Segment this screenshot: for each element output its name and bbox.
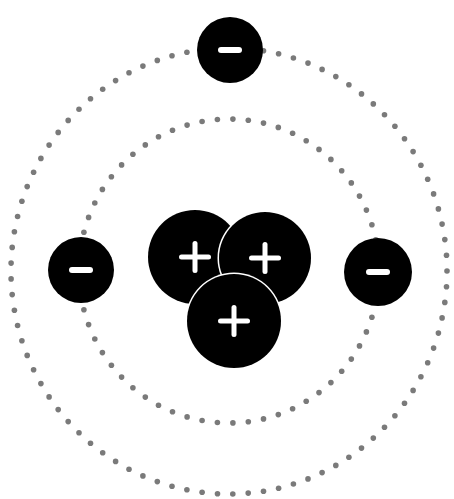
proton: +: [186, 273, 283, 370]
orbit-dot: [364, 207, 370, 213]
orbit-dot: [19, 199, 25, 205]
orbit-dot: [184, 414, 190, 420]
orbit-dot: [357, 193, 363, 199]
orbit-dot: [230, 420, 236, 426]
orbit-dot: [100, 350, 106, 356]
orbit-dot: [276, 412, 282, 418]
orbit-dot: [305, 476, 311, 482]
electron: −: [48, 237, 114, 303]
atom-diagram: +++−−−: [0, 0, 454, 499]
orbit-dot: [276, 125, 282, 131]
orbit-dot: [319, 470, 325, 476]
orbit-dot: [65, 118, 71, 124]
orbit-dot: [76, 106, 82, 112]
orbit-dot: [276, 51, 282, 57]
orbit-dot: [113, 78, 119, 84]
orbit-dot: [119, 162, 125, 168]
orbit-dot: [402, 401, 408, 407]
orbit-dot: [12, 229, 18, 235]
orbit-dot: [230, 116, 236, 122]
orbit-dot: [81, 230, 87, 236]
orbit-dot: [140, 473, 146, 479]
orbit-dot: [369, 314, 375, 320]
orbit-dot: [24, 184, 30, 190]
orbit-dot: [410, 388, 416, 394]
nucleus: +++: [147, 209, 313, 370]
orbit-dot: [291, 481, 297, 487]
orbit-dot: [31, 169, 37, 175]
orbit-dot: [215, 420, 221, 426]
orbit-dot: [199, 418, 205, 424]
orbit-dot: [442, 300, 448, 306]
orbit-dot: [184, 49, 190, 55]
orbit-dot: [31, 367, 37, 373]
orbit-dot: [15, 214, 21, 220]
orbit-dot: [55, 407, 61, 413]
orbit-dot: [439, 221, 445, 227]
orbit-dot: [143, 394, 149, 400]
orbit-dot: [246, 118, 252, 124]
orbit-dot: [76, 430, 82, 436]
orbit-dot: [425, 177, 431, 183]
orbit-dot: [55, 130, 61, 136]
orbit-dot: [46, 142, 52, 148]
orbit-dot: [316, 390, 322, 396]
orbit-dot: [431, 345, 437, 351]
orbit-dot: [316, 147, 322, 153]
orbit-dot: [303, 399, 309, 405]
orbit-dot: [425, 360, 431, 366]
orbit-dot: [261, 416, 267, 422]
orbit-dot: [382, 425, 388, 431]
orbit-dot: [119, 374, 125, 380]
orbit-dot: [9, 245, 15, 251]
orbit-dot: [170, 127, 176, 133]
orbit-dot: [357, 343, 363, 349]
orbit-dot: [290, 406, 296, 412]
orbit-dot: [439, 315, 445, 321]
orbit-dot: [88, 440, 94, 446]
orbit-dot: [319, 67, 325, 73]
orbit-dot: [349, 180, 355, 186]
orbit-dot: [402, 136, 408, 142]
orbit-dot: [9, 292, 15, 298]
orbit-dot: [126, 466, 132, 472]
orbit-dot: [333, 74, 339, 80]
orbit-dot: [156, 402, 162, 408]
orbit-dot: [109, 174, 115, 180]
orbit-dot: [46, 394, 52, 400]
orbit-dot: [169, 53, 175, 59]
orbit-dot: [156, 134, 162, 140]
electron: −: [344, 238, 412, 306]
orbit-dot: [130, 152, 136, 158]
orbit-dot: [371, 101, 377, 107]
orbit-dot: [184, 122, 190, 128]
orbit-dot: [86, 215, 92, 221]
orbit-dot: [8, 276, 14, 282]
orbit-dot: [109, 363, 115, 369]
orbit-dot: [369, 222, 375, 228]
orbit-dot: [170, 409, 176, 415]
orbit-dot: [346, 82, 352, 88]
orbit-dot: [199, 119, 205, 125]
orbit-dot: [382, 112, 388, 118]
orbit-dot: [245, 490, 251, 496]
orbit-dot: [364, 329, 370, 335]
orbit-dot: [155, 479, 161, 485]
orbit-dot: [19, 338, 25, 344]
minus-icon: [218, 47, 242, 53]
orbit-dot: [261, 488, 267, 494]
orbit-dot: [169, 483, 175, 489]
orbit-dot: [100, 187, 106, 193]
orbit-dot: [38, 156, 44, 162]
orbit-dot: [328, 157, 334, 163]
orbit-dot: [418, 162, 424, 168]
orbit-dot: [290, 131, 296, 137]
orbit-dot: [113, 459, 119, 465]
orbit-dot: [215, 491, 221, 497]
orbit-dot: [92, 200, 98, 206]
orbit-dot: [339, 369, 345, 375]
orbit-dot: [442, 237, 448, 243]
orbit-dot: [346, 454, 352, 460]
orbit-dot: [339, 168, 345, 174]
orbit-dot: [15, 323, 21, 329]
